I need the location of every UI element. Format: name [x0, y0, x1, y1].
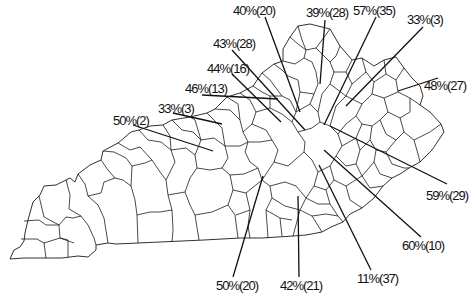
- kentucky-county-map: 40%(20) 39%(28) 57%(35) 33%(3) 43%(28) 4…: [0, 0, 475, 300]
- callout-label: 50%(20): [216, 279, 258, 292]
- callout-label: 59%(29): [426, 189, 468, 202]
- callout-label: 46%(13): [185, 82, 227, 95]
- state-outline: [10, 24, 444, 259]
- callout-label: 40%(20): [233, 4, 275, 17]
- callout-label: 48%(27): [424, 79, 466, 92]
- callout-label: 60%(10): [402, 239, 444, 252]
- callout-label: 43%(28): [213, 37, 255, 50]
- callout-label: 42%(21): [280, 279, 322, 292]
- callout-label: 39%(28): [306, 6, 348, 19]
- callout-label: 33%(3): [158, 102, 194, 115]
- callout-label: 44%(16): [207, 62, 249, 75]
- callout-label: 57%(35): [353, 4, 395, 17]
- callout-label: 33%(3): [407, 13, 443, 26]
- callout-label: 50%(2): [113, 114, 149, 127]
- callout-label: 11%(37): [357, 272, 398, 285]
